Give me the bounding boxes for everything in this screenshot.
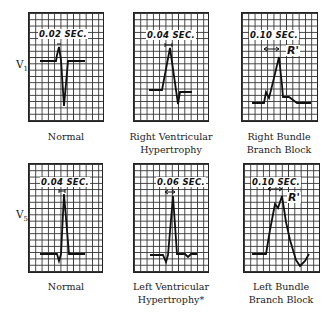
- caption-v5-lbbb: Left Bundle Branch Block: [226, 280, 330, 306]
- caption-line-2: Branch Block: [226, 293, 330, 306]
- interval-label-v5-lbbb: 0.10 SEC.: [251, 177, 301, 187]
- r-prime-label-v5: R': [287, 192, 301, 203]
- ecg-trace-v5-lbbb: [0, 0, 330, 312]
- interval-arrow-icon: [268, 187, 282, 191]
- caption-line-1: Left Bundle: [226, 280, 330, 293]
